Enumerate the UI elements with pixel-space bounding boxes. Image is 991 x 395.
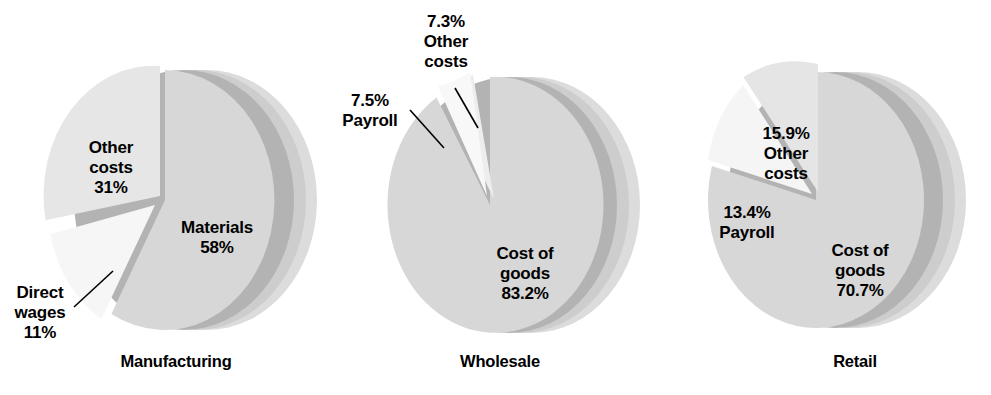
label-cost-of-goods: Cost of goods 70.7% xyxy=(810,241,910,301)
label-payroll: 7.5% Payroll xyxy=(332,91,408,131)
label-other-costs: 7.3% Other costs xyxy=(408,12,484,72)
wholesale-pie-graphic xyxy=(330,0,670,395)
label-payroll: 13.4% Payroll xyxy=(704,203,790,243)
caption-retail: Retail xyxy=(765,352,945,371)
label-other-costs: Other costs 31% xyxy=(68,138,154,198)
pie-chart-manufacturing: Materials 58% Other costs 31% Direct wag… xyxy=(0,0,340,395)
retail-pie-graphic xyxy=(655,0,991,395)
label-cost-of-goods: Cost of goods 83.2% xyxy=(475,244,575,304)
label-direct-wages: Direct wages 11% xyxy=(2,283,78,343)
figure-canvas: Materials 58% Other costs 31% Direct wag… xyxy=(0,0,991,395)
pie-chart-retail: Cost of goods 70.7% 13.4% Payroll 15.9% … xyxy=(655,0,991,395)
caption-manufacturing: Manufacturing xyxy=(86,352,266,371)
label-other-costs: 15.9% Other costs xyxy=(743,124,829,184)
label-materials: Materials 58% xyxy=(162,218,272,258)
caption-wholesale: Wholesale xyxy=(410,352,590,371)
pie-chart-wholesale: Cost of goods 83.2% 7.5% Payroll 7.3% Ot… xyxy=(330,0,670,395)
